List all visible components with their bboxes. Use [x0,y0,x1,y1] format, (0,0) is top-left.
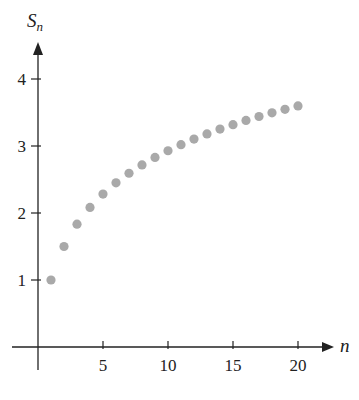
data-point [189,134,198,143]
data-point [124,169,133,178]
y-axis-arrow-icon [33,42,43,55]
data-point [215,125,224,134]
data-point [293,101,302,110]
data-point [46,275,55,284]
y-tick-label: 4 [18,70,27,89]
axis-labels: Snn [27,10,350,356]
x-tick-label: 10 [160,356,177,375]
axes [12,42,334,370]
x-axis-arrow-icon [322,342,334,352]
data-point [163,146,172,155]
data-point [59,242,68,251]
y-tick-label: 3 [18,137,27,156]
y-tick-label: 2 [18,204,27,223]
x-tick-label: 20 [290,356,307,375]
y-tick-label: 1 [18,271,27,290]
data-point [202,129,211,138]
data-points [46,101,302,284]
data-point [228,120,237,129]
data-point [150,153,159,162]
harmonic-sum-scatter-chart: 51015201234 Snn [0,0,359,400]
data-point [111,178,120,187]
data-point [280,105,289,114]
data-point [85,203,94,212]
x-axis-label: n [340,335,350,356]
data-point [254,112,263,121]
x-tick-label: 5 [99,356,108,375]
y-axis-label: Sn [27,10,43,34]
data-point [241,116,250,125]
x-tick-label: 15 [225,356,242,375]
data-point [176,140,185,149]
data-point [98,189,107,198]
data-point [72,220,81,229]
data-point [267,108,276,117]
data-point [137,160,146,169]
